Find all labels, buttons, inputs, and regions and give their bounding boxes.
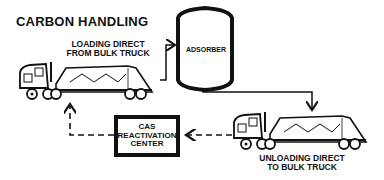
arrow-adsorber-to-truck <box>203 90 312 110</box>
arrow-truck-to-adsorber <box>160 45 175 80</box>
adsorber-label: ADSORBER <box>179 46 233 53</box>
reactivation-center-box: CAS REACTIVATION CENTER <box>114 115 180 157</box>
reactivation-line3: CENTER <box>131 140 164 149</box>
loading-truck-icon <box>20 62 152 99</box>
unloading-label-line2: TO BULK TRUCK <box>247 163 357 172</box>
unloading-truck-label: UNLOADING DIRECT TO BULK TRUCK <box>247 154 357 172</box>
unloading-truck-icon <box>234 112 366 149</box>
arrow-reactivation-to-truck <box>70 104 114 135</box>
